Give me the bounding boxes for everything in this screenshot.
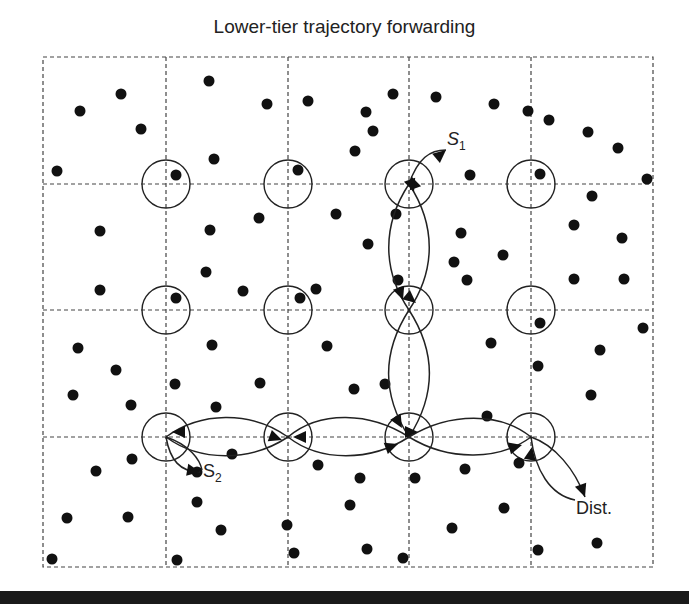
sensor-node-dot	[398, 553, 409, 564]
sensor-node-dot	[295, 293, 306, 304]
sensor-node-dot	[207, 340, 218, 351]
sensor-node-dot	[583, 127, 594, 138]
arrowhead-icon	[384, 438, 400, 454]
sensor-node-dot	[569, 220, 580, 231]
sensor-node-dot	[322, 341, 333, 352]
sensor-node-dot	[111, 365, 122, 376]
sensor-node-dot	[95, 285, 106, 296]
sensor-node-dot	[498, 250, 509, 261]
sensor-node-dot	[68, 390, 79, 401]
source-s2-label: S2	[203, 461, 222, 485]
sensor-node-dot	[449, 257, 460, 268]
sensor-node-dot	[388, 89, 399, 100]
sensor-node-dot	[75, 106, 86, 117]
sensor-node-dot	[204, 76, 215, 87]
sensor-node-dot	[569, 274, 580, 285]
s2-subscript: 2	[215, 471, 222, 485]
sensor-node-dot	[355, 473, 366, 484]
path-vertical-down-right	[409, 184, 429, 310]
destination-label: Dist.	[576, 498, 612, 519]
sensor-node-dot	[619, 274, 630, 285]
sensor-node-dot	[345, 500, 356, 511]
sensor-node-dot	[499, 503, 510, 514]
sensor-node-dot	[238, 286, 249, 297]
arrowhead-icon	[402, 290, 420, 308]
s1-subscript: 1	[459, 139, 466, 153]
sensor-node-dot	[91, 466, 102, 477]
sensor-node-dot	[227, 449, 238, 460]
sensor-node-dot	[171, 170, 182, 181]
sensor-node-dot	[303, 96, 314, 107]
sensor-node-dot	[331, 209, 342, 220]
sensor-node-dot	[73, 343, 84, 354]
path-vertical2-down-right	[409, 310, 429, 437]
sensor-node-dot	[47, 554, 58, 565]
sensor-node-dot	[523, 106, 534, 117]
sensor-node-dot	[544, 115, 555, 126]
sensor-node-dot	[116, 89, 127, 100]
sensor-node-dot	[311, 284, 322, 295]
sensor-node-dot	[95, 226, 106, 237]
sensor-node-dot	[587, 191, 598, 202]
sensor-node-dot	[216, 525, 227, 536]
s2-letter: S	[203, 461, 215, 481]
sensor-node-dot	[136, 124, 147, 135]
sensor-node-dot	[533, 361, 544, 372]
sensor-node-dot	[638, 323, 649, 334]
sensor-node-dot	[460, 464, 471, 475]
sensor-node-dot	[410, 473, 421, 484]
sensor-node-dot	[462, 275, 473, 286]
sensor-node-dot	[126, 400, 137, 411]
sensor-node-dot	[262, 99, 273, 110]
sensor-node-dot	[456, 228, 467, 239]
grid-lines	[43, 57, 653, 567]
sensor-node-dot	[613, 143, 624, 154]
sensor-node-dot	[62, 513, 73, 524]
sensor-node-dot	[255, 378, 266, 389]
sensor-node-dot	[535, 169, 546, 180]
sensor-node-dot	[170, 379, 181, 390]
sensor-node-dot	[592, 538, 603, 549]
sensor-node-dot	[617, 233, 628, 244]
sensor-nodes	[47, 76, 653, 566]
s1-letter: S	[447, 129, 459, 149]
sensor-node-dot	[533, 545, 544, 556]
sensor-node-dot	[349, 384, 360, 395]
sensor-node-dot	[368, 126, 379, 137]
sensor-node-dot	[431, 92, 442, 103]
sensor-node-dot	[486, 338, 497, 349]
bottom-border-bar	[0, 591, 689, 604]
sensor-node-dot	[586, 390, 597, 401]
sensor-node-dot	[172, 555, 183, 566]
sensor-node-dot	[350, 146, 361, 157]
sensor-node-dot	[254, 213, 265, 224]
sensor-node-dot	[293, 165, 304, 176]
sensor-node-dot	[205, 225, 216, 236]
sensor-node-dot	[514, 458, 525, 469]
sensor-node-dot	[361, 107, 372, 118]
sensor-node-dot	[642, 174, 653, 185]
sensor-node-dot	[362, 544, 373, 555]
sensor-node-dot	[192, 497, 203, 508]
sensor-node-dot	[447, 523, 458, 534]
sensor-node-dot	[201, 267, 212, 278]
sensor-node-dot	[489, 99, 500, 110]
arrowheads	[172, 145, 591, 499]
sensor-node-dot	[282, 520, 293, 531]
sensor-node-dot	[209, 154, 220, 165]
sensor-node-dot	[289, 548, 300, 559]
sensor-node-dot	[171, 293, 182, 304]
arrowhead-icon	[575, 483, 591, 499]
sensor-node-dot	[211, 402, 222, 413]
source-s1-label: S1	[447, 129, 466, 153]
arrowhead-icon	[172, 426, 185, 438]
sensor-node-dot	[363, 239, 374, 250]
sensor-node-dot	[127, 454, 138, 465]
sensor-node-dot	[123, 512, 134, 523]
forwarding-paths	[166, 150, 585, 500]
grid-border	[43, 57, 653, 567]
sensor-node-dot	[465, 170, 476, 181]
sensor-node-dot	[595, 345, 606, 356]
sensor-node-dot	[535, 318, 546, 329]
sensor-node-dot	[313, 460, 324, 471]
